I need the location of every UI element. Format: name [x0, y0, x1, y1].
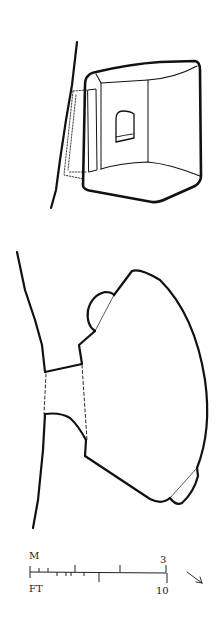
upper-apse — [88, 292, 114, 331]
section-view — [51, 42, 201, 208]
floor-edge — [101, 162, 200, 176]
niche-sill — [116, 134, 133, 137]
passage-top-wall — [45, 331, 95, 372]
plan-view — [17, 252, 207, 528]
imperial-ticks — [57, 572, 167, 583]
scale-line — [30, 572, 166, 573]
scale-metric-max: 3 — [160, 555, 166, 565]
chamber-bottom-wall — [85, 440, 170, 502]
tomb-drawing — [0, 0, 219, 630]
upper-apse-chord — [95, 295, 114, 331]
passage-dashed-right — [82, 365, 87, 440]
entrance-jamb — [88, 89, 97, 172]
scale-bar — [30, 565, 167, 583]
passage-dashed-left — [44, 374, 46, 414]
scale-imperial-label: FT — [29, 584, 43, 594]
rock-line-upper — [17, 252, 45, 372]
chamber-curve — [114, 270, 207, 468]
lower-apse-chord — [170, 468, 197, 498]
passage-bottom-wall — [45, 414, 86, 441]
arrow-southeast-icon — [187, 572, 202, 583]
lower-apse — [170, 468, 198, 504]
rock-line-lower — [33, 414, 45, 528]
niche — [116, 111, 134, 142]
scale-imperial-max: 10 — [156, 586, 169, 596]
scale-metric-label: M — [29, 551, 39, 561]
